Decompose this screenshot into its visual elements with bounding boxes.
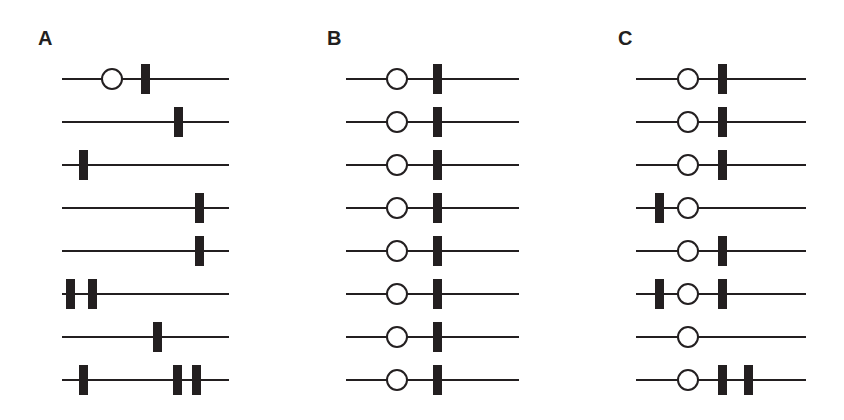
chromosome-row (0, 230, 844, 272)
filled-bar-marker (655, 279, 664, 309)
chromosome-row (0, 101, 844, 143)
open-circle-marker (677, 111, 699, 133)
open-circle-marker (677, 154, 699, 176)
open-circle-marker (677, 68, 699, 90)
open-circle-marker (677, 240, 699, 262)
filled-bar-marker (718, 279, 727, 309)
panel-c: C (0, 0, 844, 420)
row-baseline (636, 336, 806, 338)
chromosome-row (0, 144, 844, 186)
filled-bar-marker (718, 107, 727, 137)
filled-bar-marker (655, 193, 664, 223)
chromosome-row (0, 359, 844, 401)
filled-bar-marker (744, 365, 753, 395)
chromosome-row (0, 58, 844, 100)
filled-bar-marker (718, 64, 727, 94)
open-circle-marker (677, 326, 699, 348)
chromosome-row (0, 187, 844, 229)
filled-bar-marker (718, 236, 727, 266)
open-circle-marker (677, 283, 699, 305)
chromosome-row (0, 316, 844, 358)
filled-bar-marker (718, 365, 727, 395)
chromosome-row (0, 273, 844, 315)
filled-bar-marker (718, 150, 727, 180)
open-circle-marker (677, 197, 699, 219)
figure-canvas: ABC (0, 0, 844, 420)
panel-label-c: C (618, 28, 633, 48)
open-circle-marker (677, 369, 699, 391)
